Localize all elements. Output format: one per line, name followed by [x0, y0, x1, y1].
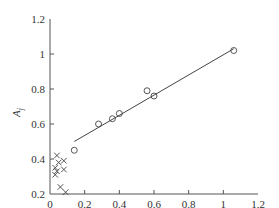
- x-tick-label: 0: [47, 198, 53, 208]
- plot-area: [52, 48, 236, 196]
- cross-marker: [56, 160, 62, 166]
- x-tick-label: 0.2: [78, 198, 92, 208]
- x-tick-label: 1.2: [251, 198, 265, 208]
- y-tick-label: 0.8: [31, 83, 45, 95]
- x-tick-label: 0.6: [147, 198, 161, 208]
- axis-ticks: 00.20.40.60.811.20.20.40.60.811.2: [31, 13, 265, 208]
- y-axis-label: Aj: [10, 107, 25, 118]
- axes: [50, 19, 258, 194]
- cross-marker: [58, 184, 64, 190]
- y-tick-label: 0.4: [31, 153, 45, 165]
- x-tick-label: 0.4: [112, 198, 126, 208]
- y-tick-label: 1.2: [31, 13, 45, 25]
- fit-line: [74, 49, 233, 142]
- cross-marker: [54, 153, 60, 159]
- y-tick-label: 0.6: [31, 118, 45, 130]
- y-tick-label: 1: [40, 48, 46, 60]
- circle-marker: [71, 147, 77, 153]
- y-tick-label: 0.2: [31, 188, 45, 200]
- x-tick-label: 0.8: [182, 198, 196, 208]
- cross-marker: [61, 158, 67, 164]
- circle-marker: [144, 88, 150, 94]
- svg-text:Aj: Aj: [10, 107, 25, 118]
- scatter-chart: 00.20.40.60.811.20.20.40.60.811.2 SA Aj: [0, 0, 279, 208]
- x-tick-label: 1: [221, 198, 227, 208]
- cross-marker: [61, 167, 67, 173]
